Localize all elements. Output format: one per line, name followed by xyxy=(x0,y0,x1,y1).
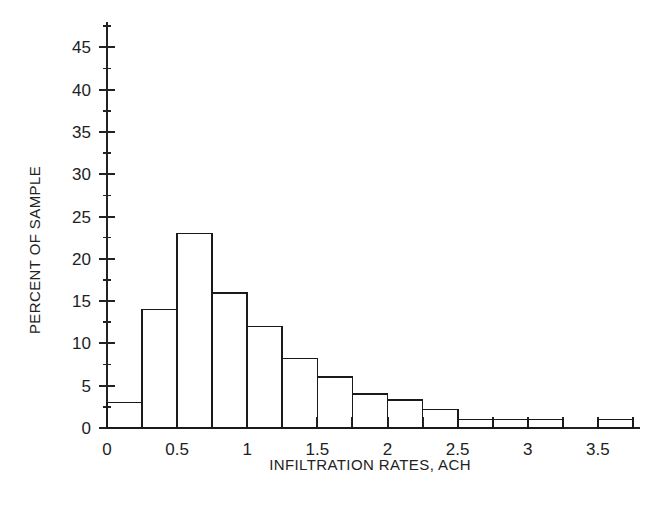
histogram-bar xyxy=(177,233,212,428)
y-tick-label: 25 xyxy=(72,208,91,227)
x-tick-label: 0 xyxy=(102,440,111,459)
y-tick-label: 45 xyxy=(72,38,91,57)
histogram-bar xyxy=(598,420,633,428)
y-tick-label: 20 xyxy=(72,250,91,269)
y-tick-label: 0 xyxy=(82,419,91,438)
y-tick-label: 15 xyxy=(72,292,91,311)
chart-canvas: 051015202530354045 00.511.522.533.5 INFI… xyxy=(0,0,656,507)
y-tick-label: 5 xyxy=(82,377,91,396)
histogram-bar xyxy=(458,420,493,428)
x-axis-title: INFILTRATION RATES, ACH xyxy=(269,456,471,473)
histogram-bar xyxy=(493,420,528,428)
histogram-bar xyxy=(212,293,247,428)
histogram-bar xyxy=(423,409,458,428)
histogram-bars xyxy=(107,233,633,428)
histogram-bar xyxy=(142,310,177,428)
histogram-bar xyxy=(528,420,563,428)
y-tick-label: 30 xyxy=(72,165,91,184)
histogram-bar xyxy=(317,377,352,428)
x-tick-label: 0.5 xyxy=(165,440,189,459)
y-tick-labels: 051015202530354045 xyxy=(72,38,91,438)
y-axis-title: PERCENT OF SAMPLE xyxy=(26,166,43,334)
histogram-bar xyxy=(282,359,317,428)
y-tick-label: 40 xyxy=(72,81,91,100)
histogram-bar xyxy=(352,394,387,428)
histogram-bar xyxy=(388,400,423,428)
x-tick-label: 1 xyxy=(243,440,252,459)
x-tick-label: 3.5 xyxy=(586,440,610,459)
y-tick-label: 35 xyxy=(72,123,91,142)
y-tick-label: 10 xyxy=(72,334,91,353)
x-tick-label: 3 xyxy=(523,440,532,459)
histogram-figure: 051015202530354045 00.511.522.533.5 INFI… xyxy=(0,0,656,507)
histogram-bar xyxy=(247,327,282,429)
histogram-bar xyxy=(107,403,142,428)
